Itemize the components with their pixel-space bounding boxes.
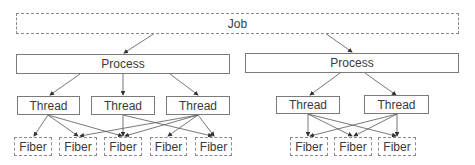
arrow-process1-thread1 (50, 74, 80, 95)
process-label: Process (101, 57, 144, 71)
arrow-process2-thread4 (310, 73, 340, 95)
job-label: Job (228, 17, 247, 31)
fiber-label: Fiber (339, 140, 366, 154)
fiber-box-3: Fiber (104, 137, 142, 156)
thread-label: Thread (289, 98, 327, 112)
process-box-2: Process (245, 53, 459, 73)
thread-box-3: Thread (166, 96, 230, 115)
fiber-box-6: Fiber (290, 137, 328, 156)
fiber-box-2: Fiber (59, 137, 97, 156)
fiber-box-5: Fiber (195, 137, 232, 156)
arrow-process2-thread5 (365, 73, 396, 95)
fiber-box-4: Fiber (150, 137, 187, 156)
fiber-label: Fiber (200, 140, 227, 154)
thread-box-5: Thread (364, 95, 429, 114)
fiber-box-7: Fiber (334, 137, 372, 156)
job-box: Job (16, 13, 459, 34)
fiber-label: Fiber (383, 140, 410, 154)
arrow-job-process-2 (325, 33, 352, 52)
thread-label: Thread (377, 98, 415, 112)
thread-box-2: Thread (91, 96, 155, 115)
thread-label: Thread (179, 99, 217, 113)
thread-label: Thread (104, 99, 142, 113)
fiber-label: Fiber (295, 140, 322, 154)
thread-box-4: Thread (276, 96, 340, 114)
arrow-process1-thread3 (170, 74, 198, 95)
arrow-job-process-1 (124, 33, 155, 53)
process-box-1: Process (16, 54, 230, 74)
thread-box-1: Thread (17, 96, 80, 115)
thread-label: Thread (29, 99, 67, 113)
process-label: Process (330, 56, 373, 70)
fiber-label: Fiber (19, 140, 46, 154)
fiber-box-1: Fiber (14, 137, 52, 156)
fiber-label: Fiber (155, 140, 182, 154)
fiber-label: Fiber (109, 140, 136, 154)
fiber-label: Fiber (64, 140, 91, 154)
fiber-box-8: Fiber (378, 137, 416, 156)
